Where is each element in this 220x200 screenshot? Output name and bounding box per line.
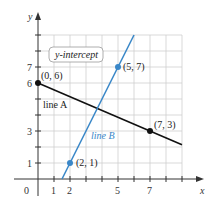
- point-5-7: [115, 64, 121, 70]
- line-graph: x y 0 1 2 5 7 1 3 6 7 (0, 6) (7, 3) (2, …: [0, 0, 220, 200]
- y-tick-1: 1: [27, 158, 32, 169]
- point-2-1: [67, 160, 73, 166]
- x-tick-7: 7: [147, 185, 152, 196]
- origin-label: 0: [24, 185, 29, 196]
- line-a-label: line A: [43, 99, 68, 110]
- line-b-label: line B: [91, 130, 115, 141]
- point-label-0-6: (0, 6): [41, 70, 63, 82]
- point-label-2-1: (2, 1): [76, 157, 98, 169]
- y-intercept-callout-text: y-intercept: [54, 49, 98, 60]
- y-tick-3: 3: [27, 126, 32, 137]
- y-axis: [35, 16, 41, 196]
- x-axis-arrow-icon: [196, 176, 204, 182]
- x-tick-1: 1: [51, 185, 56, 196]
- x-tick-2: 2: [67, 185, 72, 196]
- y-axis-arrow-icon: [35, 12, 41, 20]
- x-tick-5: 5: [115, 185, 120, 196]
- point-label-7-3: (7, 3): [154, 119, 176, 131]
- y-axis-label: y: [27, 11, 33, 22]
- y-tick-6: 6: [27, 78, 32, 89]
- y-tick-7: 7: [27, 62, 32, 73]
- point-label-5-7: (5, 7): [123, 61, 145, 73]
- point-7-3: [147, 128, 153, 134]
- x-axis: [14, 176, 200, 182]
- x-axis-label: x: [199, 185, 205, 196]
